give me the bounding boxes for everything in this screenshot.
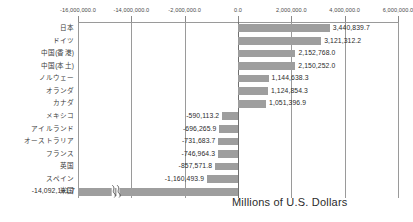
axis-tick-label: -14,000,000.0 — [113, 7, 149, 13]
axis-tick-label: 0.0 — [234, 7, 242, 13]
bar-row: ノルウェー1,144,638.3 — [0, 72, 405, 85]
bar-value-label: -746,964.3 — [0, 148, 215, 161]
axis-tick-label: 2,000,000.0 — [276, 7, 307, 13]
bar — [238, 24, 330, 32]
category-label: カナダ — [53, 97, 74, 110]
axis-tick-label: 6,000,000.0 — [383, 7, 413, 13]
bar — [238, 100, 266, 108]
bar-row: 英国-857,571.8 — [0, 160, 405, 173]
bar-row: オランダ1,124,854.3 — [0, 85, 405, 98]
bar — [218, 138, 238, 146]
bar-row: スペイン-1,160,493.9 — [0, 173, 405, 186]
bar — [218, 150, 238, 158]
bar-value-label: -14,092,101.7 — [0, 185, 75, 198]
bar-value-label: 1,124,854.3 — [271, 85, 308, 98]
bar-row: メキシコ-590,113.2 — [0, 110, 405, 123]
bar-value-label: -857,571.8 — [0, 160, 212, 173]
bar — [238, 75, 269, 83]
bar — [238, 50, 295, 58]
category-label: 中国(本土) — [41, 60, 74, 73]
bar-value-label: 1,144,638.3 — [272, 72, 309, 85]
bar — [215, 163, 238, 171]
bar-value-label: -1,160,493.9 — [0, 173, 204, 186]
bar — [238, 62, 295, 70]
category-label: 中国(香港) — [41, 47, 74, 60]
bar-row: アイルランド-696,265.9 — [0, 123, 405, 136]
bar — [207, 175, 238, 183]
bar-row: 中国(香港)2,152,768.0 — [0, 47, 405, 60]
axis-tick-label: 4,000,000.0 — [329, 7, 360, 13]
bar-row: オーストラリア-731,683.7 — [0, 135, 405, 148]
bar-value-label: -696,265.9 — [0, 123, 216, 136]
category-label: ノルウェー — [39, 72, 75, 85]
bar-row: 中国(本土)2,150,252.0 — [0, 60, 405, 73]
bar-row: フランス-746,964.3 — [0, 148, 405, 161]
axis-break-marker — [110, 185, 124, 198]
bar — [219, 125, 238, 133]
x-axis-title: Millions of U.S. Dollars — [232, 196, 347, 208]
bar — [78, 188, 238, 196]
bar — [238, 87, 268, 95]
axis-tick-label: -16,000,000.0 — [60, 7, 96, 13]
bar-value-label: 2,150,252.0 — [298, 60, 335, 73]
bar-value-label: -731,683.7 — [0, 135, 215, 148]
bar-row: ドイツ3,121,312.2 — [0, 35, 405, 48]
bar-value-label: 2,152,768.0 — [298, 47, 335, 60]
category-label: 日本 — [60, 22, 74, 35]
bar-value-label: 1,051,396.9 — [269, 97, 306, 110]
bar-value-label: 3,440,839.7 — [333, 22, 370, 35]
bar-value-label: -590,113.2 — [0, 110, 219, 123]
category-label: オランダ — [46, 85, 74, 98]
category-label: ドイツ — [53, 35, 74, 48]
bar-value-label: 3,121,312.2 — [324, 35, 361, 48]
bar-row: カナダ1,051,396.9 — [0, 97, 405, 110]
bar — [238, 37, 321, 45]
bar-row: 日本3,440,839.7 — [0, 22, 405, 35]
axis-tick-label: -2,000,000.0 — [168, 7, 201, 13]
bar — [222, 112, 238, 120]
